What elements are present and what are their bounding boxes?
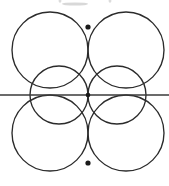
top-vertex-dot bbox=[85, 24, 90, 29]
bottom-left-circle bbox=[12, 95, 88, 171]
top-smudge-artifact bbox=[62, 2, 88, 5]
bottom-right-circle bbox=[88, 95, 164, 171]
top-right-circle bbox=[88, 12, 164, 88]
circles-diagram-svg bbox=[0, 0, 169, 186]
top-left-circle bbox=[12, 12, 88, 88]
figure-canvas bbox=[0, 0, 169, 186]
center-vertex-dot bbox=[86, 93, 91, 98]
scan-artifacts bbox=[59, 0, 112, 6]
top-right-speck-artifact bbox=[109, 0, 112, 3]
bottom-vertex-dot bbox=[85, 160, 90, 165]
top-left-speck-artifact bbox=[59, 0, 62, 3]
